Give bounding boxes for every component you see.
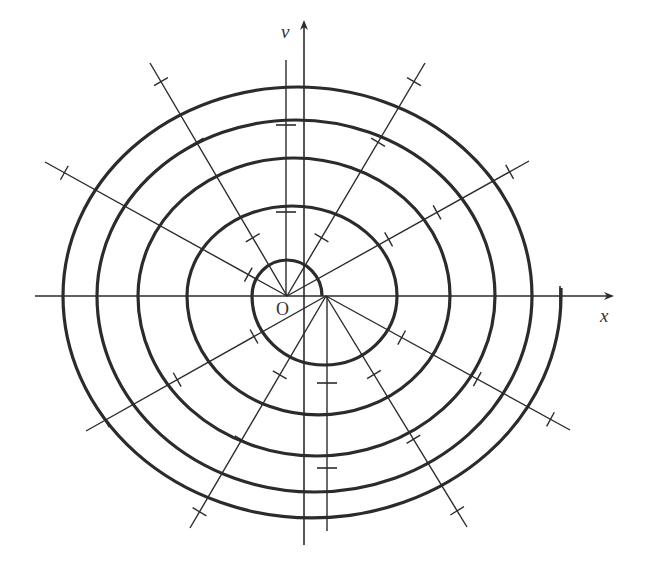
tick-mark: [407, 435, 421, 443]
axes: [35, 22, 612, 545]
spiral-lower-arc: [63, 288, 561, 518]
tick-mark: [193, 508, 207, 516]
spiral-curve: [63, 87, 561, 518]
tick-mark: [385, 232, 393, 246]
spiral-diagram: v x O: [0, 0, 647, 567]
tick-mark: [250, 330, 258, 344]
tick-mark: [450, 507, 464, 515]
tick-mark: [407, 78, 421, 86]
origin-label: O: [276, 299, 289, 319]
ray-upper-left-shallow: [45, 162, 287, 296]
spiral-lower-arc: [252, 296, 397, 365]
tick-mark: [506, 165, 514, 179]
y-axis-label: v: [281, 21, 290, 42]
spiral-upper-arc: [187, 206, 397, 296]
spiral-lower-arc: [138, 296, 495, 456]
tick-mark: [433, 205, 441, 219]
tick-mark: [60, 166, 68, 180]
tick-mark: [315, 234, 329, 242]
tick-mark: [154, 78, 168, 86]
tick-mark: [398, 331, 406, 345]
spiral-lower-arc: [187, 296, 450, 415]
spiral-upper-arc: [63, 87, 532, 296]
spiral-lower-arc: [97, 296, 532, 492]
tick-mark: [473, 372, 481, 386]
tick-mark: [246, 234, 260, 242]
tick-mark: [173, 373, 181, 387]
tick-mark: [547, 412, 555, 426]
tick-mark: [244, 268, 252, 282]
tick-mark: [273, 371, 287, 379]
spiral-upper-arc: [138, 158, 450, 296]
x-axis-label: x: [599, 305, 609, 326]
tick-mark: [367, 370, 381, 378]
ray-upper-right-steep: [287, 63, 425, 296]
spiral-upper-arc: [252, 260, 322, 296]
